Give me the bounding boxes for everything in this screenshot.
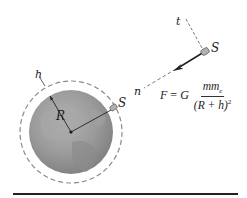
n-axis-label: n — [134, 86, 141, 97]
force-arrow-shaft — [178, 52, 204, 68]
bottom-rule — [13, 193, 238, 195]
formula-denominator: (R + h)2 — [194, 97, 231, 111]
formula-numerator: mme — [201, 80, 225, 97]
formula-fraction: mme (R + h)2 — [194, 80, 231, 111]
formula-lhs: F = G — [160, 88, 189, 103]
gravity-formula: F = G mme (R + h)2 — [160, 80, 231, 111]
t-axis-label: t — [176, 16, 180, 27]
t-axis-line — [186, 19, 202, 48]
satellite-orbit-label: S — [118, 97, 126, 109]
satellite-far-label: S — [211, 42, 219, 54]
altitude-label: h — [35, 69, 42, 80]
satellite-far-icon — [200, 47, 210, 56]
radius-label: R — [56, 110, 65, 122]
